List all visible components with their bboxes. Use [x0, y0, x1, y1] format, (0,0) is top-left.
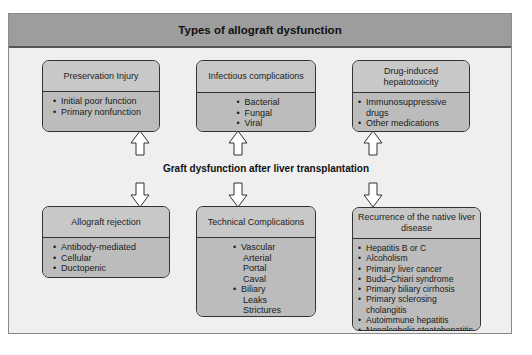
- box-preservation-injury: Preservation Injury Initial poor functio…: [42, 60, 160, 132]
- list-item: Alcoholism: [358, 253, 478, 263]
- up-arrow-icon: [130, 130, 150, 156]
- list-subitem: Caval: [233, 274, 309, 285]
- list-item: Budd–Chiari syndrome: [358, 274, 478, 284]
- box-body: Vascular Arterial Portal Caval Biliary L…: [197, 238, 315, 317]
- list-subitem: Leaks: [233, 295, 309, 306]
- box-title: Technical Complications: [197, 207, 315, 238]
- list-item: Biliary: [233, 284, 309, 295]
- list-item: Fungal: [236, 108, 279, 119]
- list-item: Other medications: [358, 118, 463, 129]
- list-item: Autoimmune hepatitis: [358, 315, 478, 325]
- box-title: Allograft rejection: [43, 207, 169, 238]
- list-item: Bacterial: [236, 97, 279, 108]
- box-technical-complications: Technical Complications Vascular Arteria…: [196, 206, 316, 317]
- up-arrow-icon: [228, 130, 248, 156]
- list-item: Primary liver cancer: [358, 264, 478, 274]
- list-item: Viral: [236, 118, 279, 129]
- list-item: Antibody-mediated: [53, 242, 163, 253]
- box-body: Hepatitis B or C Alcoholism Primary live…: [353, 239, 480, 331]
- box-title: Recurrence of the native liver disease: [353, 208, 480, 239]
- box-body: Antibody-mediated Cellular Ductopenic: [43, 238, 169, 278]
- center-label: Graft dysfunction after liver transplant…: [0, 163, 532, 174]
- down-arrow-icon: [228, 182, 248, 208]
- box-body: Immunosuppressive drugs Other medication…: [353, 93, 469, 132]
- list-item: Initial poor function: [53, 96, 153, 107]
- up-arrow-icon: [363, 130, 383, 156]
- list-item: Immunosuppressive drugs: [358, 97, 463, 118]
- list-item: Primary sclerosing cholangitis: [358, 294, 478, 315]
- list-item: Cellular: [53, 253, 163, 264]
- box-allograft-rejection: Allograft rejection Antibody-mediated Ce…: [42, 206, 170, 278]
- list-subitem: Portal: [233, 263, 309, 274]
- list-item: Ductopenic: [53, 263, 163, 274]
- box-recurrence-native-liver-disease: Recurrence of the native liver disease H…: [352, 207, 481, 331]
- diagram-title: Types of allograft dysfunction: [9, 14, 511, 48]
- down-arrow-icon: [130, 182, 150, 208]
- box-title: Drug-induced hepatotoxicity: [353, 61, 469, 93]
- list-item: Nonalcoholic steatohepatitis: [358, 325, 478, 331]
- list-subitem: Arterial: [233, 253, 309, 264]
- box-body: Initial poor function Primary nonfunctio…: [43, 92, 159, 132]
- box-title: Preservation Injury: [43, 61, 159, 92]
- list-item: Vascular: [233, 242, 309, 253]
- box-drug-induced-hepatotoxicity: Drug-induced hepatotoxicity Immunosuppre…: [352, 60, 470, 132]
- list-subitem: Strictures: [233, 305, 309, 316]
- box-body: Bacterial Fungal Viral: [197, 93, 315, 132]
- box-title: Infectious complications: [197, 61, 315, 93]
- list-item: Primary biliary cirrhosis: [358, 284, 478, 294]
- list-item: Hepatitis B or C: [358, 243, 478, 253]
- list-item: Primary nonfunction: [53, 107, 153, 118]
- box-infectious-complications: Infectious complications Bacterial Funga…: [196, 60, 316, 132]
- down-arrow-icon: [363, 182, 383, 208]
